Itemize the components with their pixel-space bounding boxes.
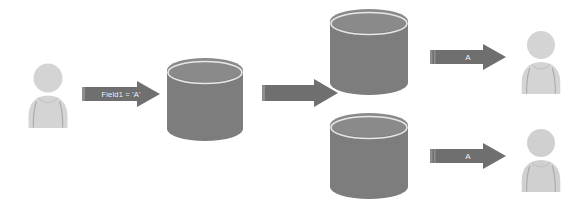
database-icon-primary (165, 57, 245, 142)
database-icon-replica-bottom (328, 112, 410, 200)
user-icon-writer (20, 58, 76, 130)
arrow-replicate (262, 79, 338, 107)
user-icon-reader-top (513, 26, 569, 96)
database-icon-replica-top (328, 8, 410, 96)
user-icon-reader-bottom (513, 124, 569, 194)
arrow-read-top: A (430, 44, 506, 70)
diagram-canvas: Field1 = 'A' A (0, 0, 586, 203)
arrow-read-bottom: A (430, 143, 506, 169)
arrow-write: Field1 = 'A' (82, 81, 160, 107)
